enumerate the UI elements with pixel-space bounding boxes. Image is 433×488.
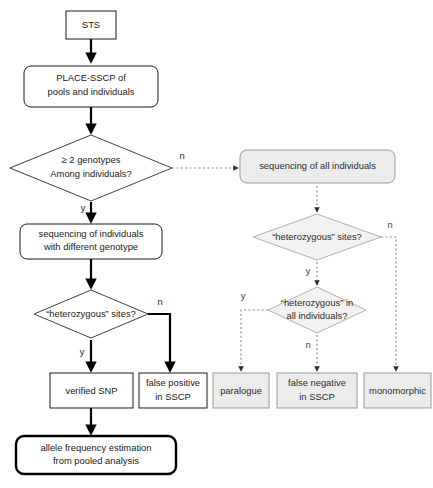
edge-het-left-n-to-false-positive (148, 314, 170, 371)
node-false-negative-label-line1: false negative (288, 377, 346, 388)
node-false-negative-label-line2: in SSCP (299, 391, 334, 402)
node-verified-snp[interactable]: verified SNP (50, 373, 133, 408)
node-het-all-label-line1: “heterozygous” in (281, 297, 353, 308)
node-sts-label: STS (82, 19, 100, 30)
node-place-sscp-label-line2: pools and individuals (47, 86, 134, 97)
node-genotypes-label-line1: ≥ 2 genotypes (62, 154, 121, 165)
edge-label-het-left-n: n (157, 296, 162, 307)
flowchart-root: STS PLACE-SSCP of pools and individuals … (0, 0, 433, 488)
node-sts[interactable]: STS (66, 11, 116, 39)
edge-label-het-left-y: y (80, 346, 85, 357)
edge-label-het-right-y: y (306, 265, 311, 276)
node-seq-individuals-label-line1: sequencing of individuals (39, 228, 144, 239)
node-allele-freq-label-line2: from pooled analysis (53, 455, 139, 466)
edge-label-het-all-y: y (241, 290, 246, 301)
node-monomorphic[interactable]: monomorphic (364, 373, 431, 408)
edge-label-het-right-n: n (387, 219, 392, 230)
node-paralogue-label: paralogue (220, 385, 262, 396)
node-monomorphic-label: monomorphic (369, 385, 426, 396)
node-verified-snp-label: verified SNP (65, 385, 117, 396)
node-seq-all[interactable]: sequencing of all individuals (240, 150, 395, 183)
node-paralogue[interactable]: paralogue (213, 373, 269, 408)
edge-het-right-n-to-monomorphic (381, 237, 396, 371)
edge-label-het-all-n: n (305, 339, 310, 350)
node-het-all[interactable]: “heterozygous” in all individuals? (268, 287, 366, 333)
node-false-negative[interactable]: false negative in SSCP (277, 373, 357, 408)
node-genotypes-label-line2: Among individuals? (50, 168, 131, 179)
node-allele-freq[interactable]: allele frequency estimation from pooled … (16, 436, 176, 474)
node-place-sscp-label-line1: PLACE-SSCP of (56, 72, 126, 83)
node-seq-all-label: sequencing of all individuals (259, 160, 376, 171)
flowchart-canvas: STS PLACE-SSCP of pools and individuals … (0, 0, 433, 488)
node-allele-freq-label-line1: allele frequency estimation (41, 442, 152, 453)
node-place-sscp[interactable]: PLACE-SSCP of pools and individuals (24, 66, 158, 107)
node-seq-individuals-label-line2: with different genotype (43, 241, 138, 252)
node-false-positive-label-line1: false positive (146, 377, 200, 388)
edge-label-genotypes-n: n (179, 150, 184, 161)
node-het-sites-left-label: “heterozygous” sites? (46, 308, 136, 319)
node-false-positive-label-line2: in SSCP (155, 391, 190, 402)
node-seq-individuals[interactable]: sequencing of individuals with different… (20, 224, 162, 259)
edge-label-genotypes-y: y (81, 202, 86, 213)
node-genotypes-decision[interactable]: ≥ 2 genotypes Among individuals? (10, 135, 172, 201)
node-het-all-label-line2: all individuals? (287, 310, 348, 321)
edge-het-all-y-to-paralogue (241, 310, 268, 371)
node-false-positive[interactable]: false positive in SSCP (139, 373, 207, 408)
node-het-sites-right-label: “heterozygous” sites? (272, 231, 362, 242)
node-het-sites-right[interactable]: “heterozygous” sites? (253, 214, 381, 260)
node-het-sites-left[interactable]: “heterozygous” sites? (34, 290, 148, 338)
